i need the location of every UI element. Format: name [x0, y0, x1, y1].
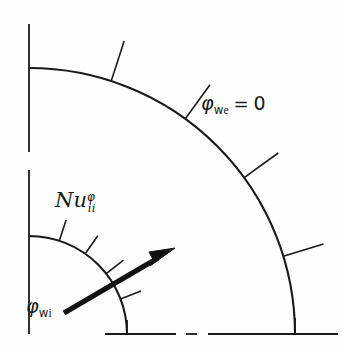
phi-symbol-inner: φ [26, 295, 39, 318]
outer-tick-4 [283, 244, 323, 256]
heat-flux-arrow [64, 248, 175, 313]
phi-symbol: φ [201, 92, 214, 115]
inner-tick-1 [59, 220, 66, 241]
phi-subsubscript-e: e [223, 104, 228, 117]
nusselt-base: Nu [55, 188, 87, 212]
inner-tick-3 [106, 260, 123, 274]
phi-subscript-w: w [214, 103, 224, 117]
outer-tick-3 [244, 153, 278, 178]
outer-tick-1 [111, 41, 124, 81]
inner-wall-label: φwi [26, 295, 52, 321]
quarter-annulus-diagram: φwe = 0 Nuφii φwi [0, 0, 343, 352]
phi-subsubscript-i: i [48, 307, 51, 320]
phi-subscript-w-inner: w [39, 306, 49, 320]
nusselt-subscript-ii: ii [88, 201, 96, 215]
zero-value: 0 [253, 92, 265, 114]
inner-tick-4 [121, 291, 142, 299]
inner-tick-2 [85, 236, 98, 254]
equals-sign: = [233, 93, 248, 114]
nusselt-number-label: Nuφii [55, 188, 96, 215]
outer-wall-label: φwe = 0 [201, 92, 266, 118]
